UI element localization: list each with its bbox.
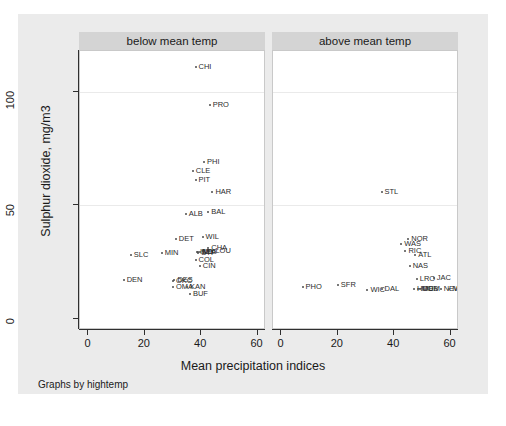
data-point: [185, 213, 187, 215]
data-point: [161, 252, 163, 254]
data-point: [416, 278, 418, 280]
data-point-label: DAL: [385, 284, 400, 293]
data-point-label: STL: [385, 187, 399, 196]
x-axis-title: Mean precipitation indices: [18, 359, 488, 373]
x-tick-label: 60: [250, 337, 262, 349]
data-point: [199, 265, 201, 267]
data-point-label: CHI: [199, 62, 212, 71]
x-tick-label: 20: [331, 337, 343, 349]
grid-line: [273, 92, 457, 93]
data-point: [381, 191, 383, 193]
grid-line: [80, 92, 264, 93]
data-point-label: WIL: [206, 232, 219, 241]
x-tick-label: 60: [443, 337, 455, 349]
data-point: [175, 238, 177, 240]
panel-above-mean-temp: STLNORWASRICATLNASLROJACSFRPHOWICDALHOUM…: [272, 50, 458, 329]
data-point: [207, 211, 209, 213]
data-point-label: DEN: [127, 275, 143, 284]
graph-note: Graphs by hightemp: [38, 379, 128, 390]
x-tick-label: 0: [84, 337, 90, 349]
grid-line: [273, 205, 457, 206]
data-point-label: SLC: [134, 250, 149, 259]
y-tick-label: 50: [4, 204, 16, 216]
data-point: [209, 104, 211, 106]
data-point: [192, 170, 194, 172]
y-axis-title: Sulphur dioxide, mg/m3: [39, 31, 53, 311]
x-tick: [393, 330, 394, 335]
data-point: [414, 254, 416, 256]
data-point: [195, 66, 197, 68]
x-tick: [337, 330, 338, 335]
data-point-label: ALB: [189, 209, 203, 218]
data-point: [189, 293, 191, 295]
x-tick: [257, 330, 258, 335]
y-tick: [73, 91, 78, 92]
data-point: [172, 286, 174, 288]
data-point-label: MIN: [165, 248, 179, 257]
data-point: [409, 265, 411, 267]
data-point-label: DET: [179, 234, 194, 243]
panel-header-above-mean-temp: above mean temp: [272, 32, 458, 50]
data-point: [433, 277, 435, 279]
data-point: [400, 243, 402, 245]
figure-canvas: Sulphur dioxide, mg/m3 Mean precipitatio…: [18, 14, 488, 394]
x-tick: [450, 330, 451, 335]
data-point: [195, 259, 197, 261]
data-point-label: ATL: [418, 250, 431, 259]
data-point-label: CLE: [196, 166, 211, 175]
data-point: [381, 288, 383, 290]
data-point-label: HAR: [215, 187, 231, 196]
y-tick-label: 0: [4, 318, 16, 324]
data-point-label: SFR: [341, 280, 356, 289]
data-point: [337, 284, 339, 286]
data-point-label: LOU: [215, 246, 230, 255]
y-tick-label: 100: [4, 91, 16, 109]
data-point: [302, 286, 304, 288]
data-point: [172, 280, 174, 282]
grid-line: [80, 205, 264, 206]
data-point: [404, 250, 406, 252]
data-point-label: PRO: [213, 100, 229, 109]
data-point-label: PHI: [207, 157, 220, 166]
y-tick: [73, 204, 78, 205]
data-point-label: PIT: [199, 175, 211, 184]
data-point-label: PHO: [306, 282, 322, 291]
data-point: [202, 236, 204, 238]
data-point-label: MIA: [452, 284, 458, 293]
data-point: [211, 191, 213, 193]
x-tick-label: 20: [138, 337, 150, 349]
data-point-label: MOB: [421, 284, 438, 293]
data-point-label: WIC: [370, 285, 385, 294]
x-tick: [87, 330, 88, 335]
data-point-label: NAS: [413, 261, 428, 270]
x-tick-label: 0: [277, 337, 283, 349]
data-point: [366, 289, 368, 291]
x-tick-label: 40: [387, 337, 399, 349]
data-point: [413, 288, 415, 290]
data-point: [440, 288, 442, 290]
data-point-label: BUF: [193, 289, 208, 298]
x-tick: [280, 330, 281, 335]
x-tick-label: 40: [194, 337, 206, 349]
x-tick: [200, 330, 201, 335]
data-point: [130, 254, 132, 256]
data-point: [123, 279, 125, 281]
data-point: [186, 286, 188, 288]
data-point: [203, 161, 205, 163]
data-point-label: CIN: [203, 261, 216, 270]
x-axis-line-panel-1: [272, 329, 458, 330]
y-tick: [73, 318, 78, 319]
panel-header-below-mean-temp: below mean temp: [79, 32, 265, 50]
data-point: [195, 179, 197, 181]
data-point-label: BAL: [211, 207, 225, 216]
data-point-label: JAC: [437, 273, 451, 282]
x-axis-line-panel-0: [79, 329, 265, 330]
panel-below-mean-temp: CHIPROPHICLEPITHARBALALBWILDETCHALOUINDS…: [79, 50, 265, 329]
x-tick: [144, 330, 145, 335]
